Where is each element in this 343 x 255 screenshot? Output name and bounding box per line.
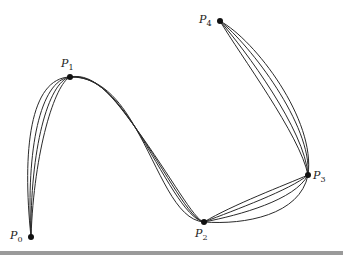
diagram-canvas: P0P1P2P3P4: [0, 0, 343, 255]
curves-layer: [0, 0, 343, 255]
bottom-rule: [0, 251, 343, 255]
point-p1: [67, 74, 73, 80]
label-p2: P2: [195, 228, 208, 242]
curve-2: [30, 21, 308, 237]
point-p4: [217, 18, 223, 24]
label-p0: P0: [10, 230, 23, 244]
point-p0: [28, 234, 34, 240]
label-p4: P4: [199, 14, 212, 28]
label-p3: P3: [313, 170, 326, 184]
point-p2: [201, 219, 207, 225]
label-p1: P1: [61, 58, 74, 72]
point-p3: [305, 172, 311, 178]
